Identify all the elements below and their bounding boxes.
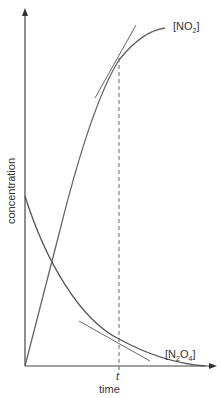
- x-axis-arrow-icon: [209, 363, 217, 369]
- no2-tangent: [95, 25, 136, 98]
- t-tick-label: t: [116, 370, 119, 382]
- no2-curve: [25, 28, 165, 366]
- n2o4-label: [N2O4]: [165, 348, 195, 362]
- x-axis-label: time: [99, 383, 120, 395]
- chart: [0, 0, 221, 398]
- no2-label: [NO2]: [173, 20, 200, 34]
- y-axis-arrow-icon: [22, 8, 28, 16]
- y-axis-label: concentration: [5, 158, 17, 224]
- n2o4-curve: [25, 196, 205, 366]
- n2o4-tangent: [79, 321, 150, 361]
